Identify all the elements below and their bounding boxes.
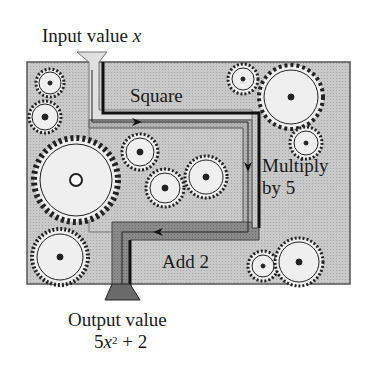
input-label: Input value x [42, 26, 141, 46]
function-machine-diagram: Input value x Square Multiply by 5 Add 2… [0, 0, 366, 373]
output-label: Output value [68, 310, 167, 330]
input-label-text: Input value [42, 25, 128, 46]
step-multiply-label: Multiply [262, 156, 329, 176]
output-expression: 5x2 + 2 [94, 332, 147, 352]
machine-graphic [0, 0, 366, 373]
step-add-label: Add 2 [162, 252, 209, 272]
output-coef: 5 [94, 331, 104, 352]
output-rest: + 2 [117, 331, 147, 352]
output-var: x [104, 331, 112, 352]
step-multiply-label-2: by 5 [262, 178, 295, 198]
output-exponent: 2 [112, 334, 118, 346]
input-variable: x [133, 25, 141, 46]
step-square-label: Square [130, 86, 183, 106]
output-funnel [105, 284, 140, 300]
